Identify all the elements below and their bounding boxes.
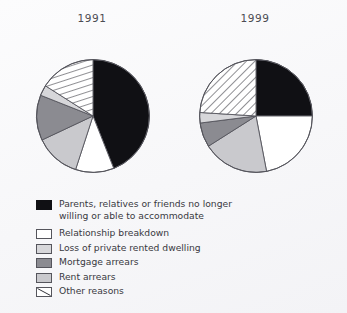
pie-title-1999: 1999	[225, 12, 285, 24]
legend-item-rent: Rent arrears	[36, 271, 316, 283]
figure-canvas: 1991 1999	[0, 0, 347, 313]
charts-area: 1991 1999	[0, 0, 347, 190]
pie-svg-1991	[35, 58, 151, 174]
pie-chart-1991	[35, 58, 151, 178]
legend-label-rent: Rent arrears	[59, 271, 116, 283]
pie-slice	[256, 60, 312, 116]
legend-item-parents: Parents, relatives or friends no longer …	[36, 198, 316, 221]
legend-item-relationship: Relationship breakdown	[36, 227, 316, 239]
legend-item-mortgage: Mortgage arrears	[36, 256, 316, 268]
legend-item-other: Other reasons	[36, 285, 316, 297]
legend-swatch-light-gray-icon	[36, 244, 52, 254]
pie-chart-1999	[198, 58, 314, 178]
legend-label-parents: Parents, relatives or friends no longer …	[59, 198, 232, 221]
pie-title-1991: 1991	[62, 12, 122, 24]
legend: Parents, relatives or friends no longer …	[36, 198, 316, 300]
legend-swatch-solid-black-icon	[36, 200, 52, 210]
legend-label-other: Other reasons	[59, 285, 124, 297]
legend-label-relationship: Relationship breakdown	[59, 227, 169, 239]
pie-svg-1999	[198, 58, 314, 174]
legend-swatch-solid-white-icon	[36, 229, 52, 239]
legend-item-loss-rented: Loss of private rented dwelling	[36, 242, 316, 254]
legend-label-loss-rented: Loss of private rented dwelling	[59, 242, 201, 254]
legend-swatch-dark-gray-icon	[36, 258, 52, 268]
legend-swatch-diagonal-hatch-icon	[36, 287, 52, 297]
legend-label-mortgage: Mortgage arrears	[59, 256, 138, 268]
pie-slices-1999	[200, 60, 313, 173]
pie-slices-1991	[37, 60, 150, 173]
pie-slice	[200, 60, 256, 116]
legend-swatch-mid-gray-icon	[36, 273, 52, 283]
